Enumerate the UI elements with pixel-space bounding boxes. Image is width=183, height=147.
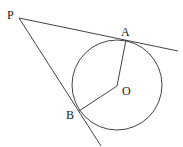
tangent-line-pa — [19, 18, 178, 51]
point-label-o: O — [122, 84, 131, 98]
tangent-line-pb — [19, 18, 101, 146]
point-label-b: B — [66, 108, 74, 122]
tangent-circle-diagram: P A O B — [0, 0, 183, 147]
point-label-a: A — [121, 25, 130, 39]
radius-oa — [117, 40, 126, 86]
radius-ob — [79, 86, 117, 111]
point-label-p: P — [7, 8, 14, 22]
